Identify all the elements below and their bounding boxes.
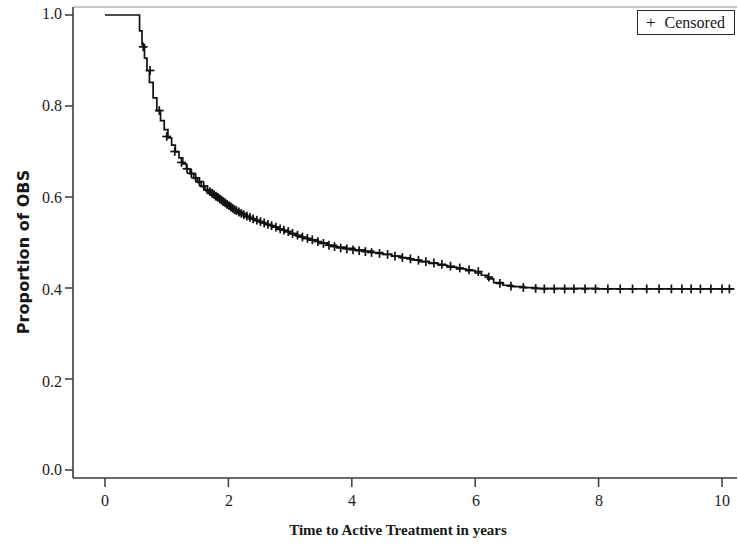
plot-area (0, 0, 738, 548)
x-tick-label-3: 4 (332, 492, 372, 510)
kaplan-meier-figure: Proportion of OBS Time to Active Treatme… (0, 0, 738, 548)
y-tick-label-3: 0.6 (16, 189, 62, 207)
x-tick-label-1: 0 (85, 492, 125, 510)
y-tick-label-6: 0.0 (16, 461, 62, 479)
censored-marks (139, 42, 734, 293)
legend-label: Censored (665, 14, 725, 32)
y-axis-title: Proportion of OBS (14, 102, 40, 402)
x-tick-label-5: 8 (579, 492, 619, 510)
x-tick-label-4: 6 (456, 492, 496, 510)
legend-box: + Censored (637, 10, 735, 35)
survival-curve (105, 15, 734, 289)
x-axis-title: Time to Active Treatment in years (73, 522, 723, 539)
y-tick-label-2: 0.8 (16, 97, 62, 115)
x-tick-label-2: 2 (209, 492, 249, 510)
y-tick-label-4: 0.4 (16, 281, 62, 299)
y-tick-label-5: 0.2 (16, 373, 62, 391)
x-tick-label-6: 10 (702, 492, 738, 510)
y-tick-label-1: 1.0 (16, 5, 62, 23)
censored-plus-icon: + (646, 14, 656, 31)
